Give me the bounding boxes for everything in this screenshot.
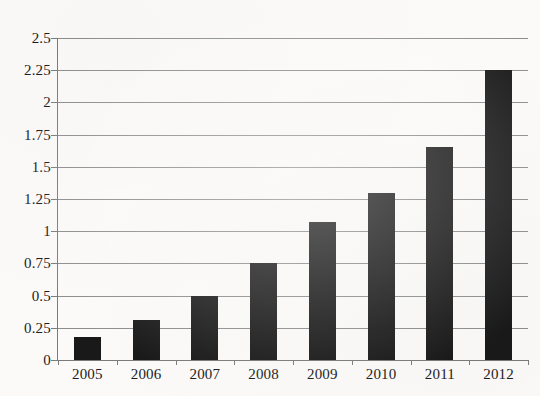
gridline <box>58 328 528 329</box>
x-axis-tick <box>469 360 470 365</box>
x-axis-tick <box>117 360 118 365</box>
y-axis-tick-label: 1.5 <box>32 158 51 175</box>
x-axis-tick-label: 2006 <box>131 366 162 383</box>
x-axis-tick <box>411 360 412 365</box>
x-axis-tick <box>176 360 177 365</box>
y-axis-tick-label: 0.75 <box>24 255 51 272</box>
gridline <box>58 38 528 39</box>
x-axis-tick-label: 2007 <box>189 366 220 383</box>
x-axis-tick-label: 2010 <box>366 366 397 383</box>
x-axis-tick-label: 2005 <box>72 366 103 383</box>
y-axis-tick-label: 1.75 <box>24 126 51 143</box>
y-axis-tick-label: 0 <box>43 352 51 369</box>
bar <box>250 263 277 360</box>
bar <box>485 70 512 360</box>
plot-area <box>58 38 528 360</box>
gridline <box>58 70 528 71</box>
x-axis-tick <box>352 360 353 365</box>
gridline <box>58 167 528 168</box>
y-axis-labels: 00.250.50.7511.251.51.7522.252.5 <box>0 38 51 360</box>
gridline <box>58 263 528 264</box>
x-axis-tick <box>58 360 59 365</box>
bar <box>74 337 101 360</box>
x-axis-tick <box>528 360 529 365</box>
y-axis-tick-label: 1.25 <box>24 191 51 208</box>
x-axis-tick-label: 2009 <box>307 366 338 383</box>
bar <box>368 193 395 360</box>
bar-chart: 00.250.50.7511.251.51.7522.252.5 2005200… <box>0 0 540 396</box>
x-axis-tick <box>293 360 294 365</box>
x-axis-labels: 20052006200720082009201020112012 <box>58 366 528 392</box>
y-axis-tick-label: 0.5 <box>32 287 51 304</box>
x-axis-tick-label: 2012 <box>483 366 514 383</box>
gridline <box>58 231 528 232</box>
y-axis-tick-label: 2 <box>43 94 51 111</box>
bar <box>133 320 160 360</box>
y-axis-tick-label: 0.25 <box>24 319 51 336</box>
y-axis-tick-label: 2.5 <box>32 30 51 47</box>
y-axis-tick-label: 1 <box>43 223 51 240</box>
bar <box>426 147 453 360</box>
bar <box>191 296 218 360</box>
x-axis-tick-label: 2011 <box>425 366 455 383</box>
bar <box>309 222 336 360</box>
gridline <box>58 199 528 200</box>
y-axis-tick-label: 2.25 <box>24 62 51 79</box>
x-axis-tick-label: 2008 <box>248 366 279 383</box>
gridline <box>58 135 528 136</box>
gridline <box>58 296 528 297</box>
x-axis-tick <box>234 360 235 365</box>
gridline <box>58 102 528 103</box>
